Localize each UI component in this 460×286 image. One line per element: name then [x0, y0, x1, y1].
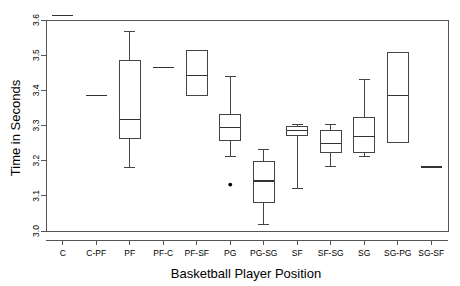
x-tick-label: C-PF	[86, 248, 106, 258]
box-series	[52, 16, 441, 225]
x-tick-label: C	[60, 248, 66, 258]
box-pf-sf	[186, 51, 207, 96]
box-pg-sg	[253, 149, 274, 224]
box-rect	[119, 60, 140, 138]
box-sg-pg	[387, 52, 408, 142]
y-tick-label: 3.0	[31, 225, 41, 237]
x-tick-label: PF-SF	[184, 248, 209, 258]
box-rect	[253, 161, 274, 202]
box-rect	[186, 51, 207, 96]
box-rect	[320, 131, 341, 153]
chart-svg: Time in Seconds Basketball Player Positi…	[0, 0, 460, 286]
y-tick-label: 3.3	[31, 119, 41, 131]
x-tick-label: SF	[292, 248, 303, 258]
y-tick-label: 3.5	[31, 49, 41, 61]
x-tick-label: SF-SG	[318, 248, 344, 258]
box-sg	[354, 79, 375, 156]
box-rect	[354, 118, 375, 153]
boxplot-chart: Time in Seconds Basketball Player Positi…	[0, 0, 460, 286]
x-axis-title: Basketball Player Position	[171, 266, 321, 281]
y-axis-title: Time in Seconds	[8, 79, 23, 176]
x-axis: CC-PFPFPF-CPF-SFPGPG-SGSFSF-SGSGSG-PGSG-…	[46, 240, 448, 258]
y-tick-label: 3.6	[31, 14, 41, 26]
x-tick-label: PF-C	[153, 248, 173, 258]
y-tick-label: 3.2	[31, 154, 41, 166]
box-pg	[220, 77, 241, 187]
box-sf-sg	[320, 125, 341, 167]
x-tick-label: SG-PG	[384, 248, 411, 258]
x-tick-label: PF	[124, 248, 135, 258]
box-sf	[287, 125, 308, 188]
x-tick-label: SG-SF	[418, 248, 444, 258]
box-pf	[119, 31, 140, 167]
outlier-point	[228, 183, 232, 187]
x-tick-label: SG	[358, 248, 370, 258]
y-tick-label: 3.1	[31, 190, 41, 202]
y-tick-label: 3.4	[31, 84, 41, 96]
y-axis: 3.03.13.23.33.43.53.6	[31, 14, 46, 237]
x-tick-label: PG-SG	[250, 248, 277, 258]
x-tick-label: PG	[224, 248, 236, 258]
box-rect	[387, 52, 408, 142]
